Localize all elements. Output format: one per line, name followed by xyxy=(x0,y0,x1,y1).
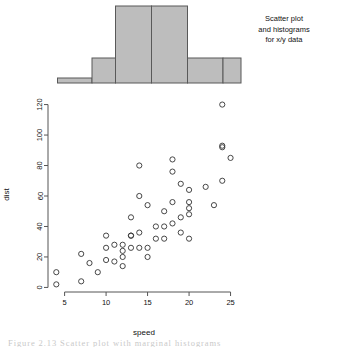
scatter-point xyxy=(54,270,59,275)
scatter-point xyxy=(128,215,133,220)
scatter-point xyxy=(120,254,125,259)
scatter-point xyxy=(128,233,133,238)
scatter-point xyxy=(162,236,167,241)
scatter-point xyxy=(162,209,167,214)
scatter-point xyxy=(103,257,108,262)
annotation-line-2: and histograms xyxy=(234,25,334,36)
scatter-point xyxy=(120,264,125,269)
scatter-point xyxy=(186,187,191,192)
scatter-plot-with-marginal-histograms: 020406080100120510152025 xyxy=(0,0,342,347)
scatter-point xyxy=(112,259,117,264)
top-histogram-bar xyxy=(188,58,224,83)
scatter-point xyxy=(145,203,150,208)
scatter-point xyxy=(137,163,142,168)
x-axis-tick-label: 25 xyxy=(226,298,234,307)
top-histogram-bar xyxy=(92,58,116,83)
scatter-point xyxy=(153,224,158,229)
scatter-point xyxy=(170,200,175,205)
scatter-point xyxy=(137,230,142,235)
scatter-point xyxy=(186,200,191,205)
scatter-point xyxy=(162,224,167,229)
scatter-point xyxy=(170,157,175,162)
scatter-point xyxy=(203,184,208,189)
scatter-point xyxy=(120,242,125,247)
top-histogram-bar xyxy=(116,6,152,83)
x-axis-label: speed xyxy=(0,328,288,337)
y-axis-tick-label: 120 xyxy=(36,98,45,111)
x-axis-tick-label: 15 xyxy=(143,298,151,307)
scatter-point xyxy=(87,260,92,265)
scatter-point xyxy=(211,203,216,208)
scatter-point xyxy=(186,212,191,217)
top-histogram-bar xyxy=(58,78,93,83)
y-axis-tick-label: 20 xyxy=(36,253,45,261)
scatter-point xyxy=(186,236,191,241)
scatter-point xyxy=(137,193,142,198)
y-axis-tick-label: 0 xyxy=(36,285,45,289)
scatter-point xyxy=(103,245,108,250)
annotation-line-3: for x/y data xyxy=(234,35,334,46)
annotation-line-1: Scatter plot xyxy=(234,14,334,25)
scatter-point xyxy=(228,155,233,160)
scatter-point xyxy=(178,181,183,186)
scatter-point xyxy=(137,245,142,250)
top-marginal-histogram xyxy=(58,6,242,83)
figure-annotation: Scatter plot and histograms for x/y data xyxy=(234,14,334,46)
y-axis-tick-label: 60 xyxy=(36,192,45,200)
scatter-point xyxy=(145,245,150,250)
scatter-point xyxy=(79,251,84,256)
scatter-point xyxy=(120,248,125,253)
scatter-point xyxy=(153,236,158,241)
figure-canvas: 020406080100120510152025 Scatter plot an… xyxy=(0,0,342,347)
scatter-point xyxy=(54,282,59,287)
scatter-point xyxy=(103,233,108,238)
scatter-point xyxy=(178,215,183,220)
x-axis-tick-label: 20 xyxy=(185,298,193,307)
y-axis-tick-label: 80 xyxy=(36,161,45,169)
x-axis-tick-label: 5 xyxy=(63,298,67,307)
figure-caption: Figure 2.13 Scatter plot with marginal h… xyxy=(8,338,221,347)
y-axis-tick-label: 40 xyxy=(36,222,45,230)
scatter-point xyxy=(220,178,225,183)
y-axis-label: dist xyxy=(2,175,11,215)
plot-axes: 020406080100120510152025 xyxy=(36,98,235,307)
scatter-point xyxy=(220,102,225,107)
scatter-point xyxy=(178,230,183,235)
scatter-point xyxy=(79,279,84,284)
scatter-point xyxy=(186,206,191,211)
scatter-point xyxy=(128,245,133,250)
scatter-point xyxy=(145,254,150,259)
x-axis-tick-label: 10 xyxy=(102,298,110,307)
scatter-point xyxy=(112,242,117,247)
scatter-point xyxy=(170,221,175,226)
scatter-point xyxy=(170,169,175,174)
y-axis-tick-label: 100 xyxy=(36,129,45,142)
scatter-points-group xyxy=(54,102,233,287)
top-histogram-bar xyxy=(223,58,241,83)
scatter-point xyxy=(95,270,100,275)
top-histogram-bar xyxy=(152,6,188,83)
